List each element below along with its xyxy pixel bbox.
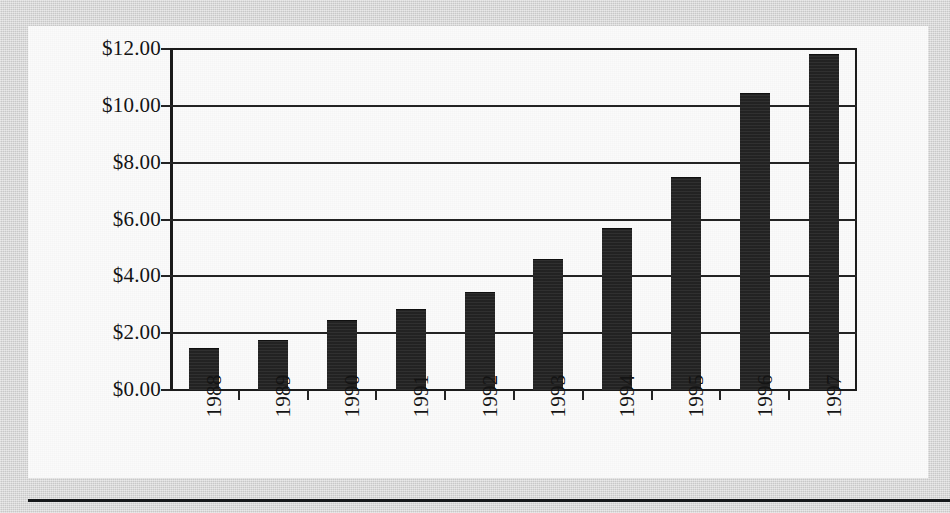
y-axis-tick bbox=[161, 105, 170, 107]
x-axis-tick-label: 1992 bbox=[445, 392, 514, 478]
bar bbox=[740, 93, 770, 390]
y-axis-tick bbox=[161, 332, 170, 334]
y-axis-tick-label: $2.00 bbox=[11, 322, 161, 343]
x-axis-tick-label-text: 1989 bbox=[273, 374, 294, 417]
x-axis-tick-label: 1996 bbox=[720, 392, 789, 478]
x-axis-tick-label-text: 1988 bbox=[204, 374, 225, 417]
x-axis-tick-label-text: 1991 bbox=[411, 374, 432, 417]
x-axis-tick-label: 1989 bbox=[239, 392, 308, 478]
y-axis-tick bbox=[161, 48, 170, 50]
x-axis-tick-label-text: 1990 bbox=[342, 374, 363, 417]
x-axis-tick-label: 1995 bbox=[652, 392, 721, 478]
y-axis-tick-label: $12.00 bbox=[11, 38, 161, 59]
y-axis-tick-label: $4.00 bbox=[11, 265, 161, 286]
x-axis-tick-label: 1988 bbox=[170, 392, 239, 478]
plot-area bbox=[170, 49, 858, 390]
x-axis-tick-label: 1991 bbox=[376, 392, 445, 478]
x-axis-tick-label-text: 1996 bbox=[755, 374, 776, 417]
y-axis-tick-label: $6.00 bbox=[11, 209, 161, 230]
x-axis-tick-label: 1990 bbox=[308, 392, 377, 478]
x-axis-tick-label: 1994 bbox=[583, 392, 652, 478]
scanned-page: $12.00$10.00$8.00$6.00$4.00$2.00$0.00 19… bbox=[0, 0, 950, 513]
x-axis-label-group: 1988198919901991199219931994199519961997 bbox=[170, 392, 858, 478]
bar bbox=[533, 259, 563, 390]
page-horizontal-rule bbox=[28, 499, 950, 502]
x-axis-tick-label-text: 1992 bbox=[480, 374, 501, 417]
x-axis-tick-label-text: 1993 bbox=[548, 374, 569, 417]
y-axis-tick bbox=[161, 162, 170, 164]
x-axis-tick-label-text: 1994 bbox=[617, 374, 638, 417]
y-axis-tick-label: $10.00 bbox=[11, 95, 161, 116]
plot-frame-top bbox=[170, 48, 857, 50]
y-axis-tick-label: $0.00 bbox=[11, 379, 161, 400]
y-axis-tick-label: $8.00 bbox=[11, 152, 161, 173]
x-axis-tick-label-text: 1995 bbox=[686, 374, 707, 417]
x-axis-tick-label: 1997 bbox=[789, 392, 858, 478]
y-axis-tick bbox=[161, 219, 170, 221]
y-axis-tick bbox=[161, 275, 170, 277]
y-axis-tick bbox=[161, 389, 170, 391]
x-axis-tick-label: 1993 bbox=[514, 392, 583, 478]
x-axis-tick-label-text: 1997 bbox=[824, 374, 845, 417]
y-axis-label-group: $12.00$10.00$8.00$6.00$4.00$2.00$0.00 bbox=[0, 49, 161, 390]
bar bbox=[809, 54, 839, 390]
bar bbox=[671, 177, 701, 390]
bar bbox=[602, 228, 632, 390]
